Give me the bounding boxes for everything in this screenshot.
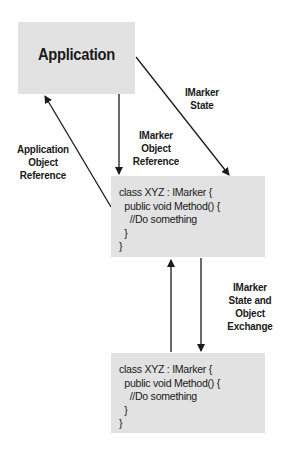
code-line: } <box>119 227 128 239</box>
application-label: Application <box>23 46 131 64</box>
code-line: //Do something <box>119 390 197 402</box>
code-line: } <box>119 417 122 429</box>
marker-object-box-1: class XYZ : IMarker { public void Method… <box>111 176 265 257</box>
code-line: } <box>119 404 128 416</box>
code-line: class XYZ : IMarker { <box>119 186 212 198</box>
marker-object-box-2: class XYZ : IMarker { public void Method… <box>111 353 265 433</box>
label-imarker-state-object-exchange: IMarker State and Object Exchange <box>222 281 278 333</box>
label-imarker-state: IMarker State <box>175 86 229 112</box>
code-block-1: class XYZ : IMarker { public void Method… <box>119 186 220 254</box>
code-line: } <box>119 240 122 252</box>
code-line: //Do something <box>119 213 197 225</box>
code-line: class XYZ : IMarker { <box>119 363 212 375</box>
code-line: public void Method() { <box>119 200 220 212</box>
label-application-object-reference: Application Object Reference <box>12 143 75 182</box>
code-block-2: class XYZ : IMarker { public void Method… <box>119 363 220 431</box>
code-line: public void Method() { <box>119 377 220 389</box>
label-imarker-object-reference: IMarker Object Reference <box>129 129 183 168</box>
application-box: Application <box>18 22 135 94</box>
